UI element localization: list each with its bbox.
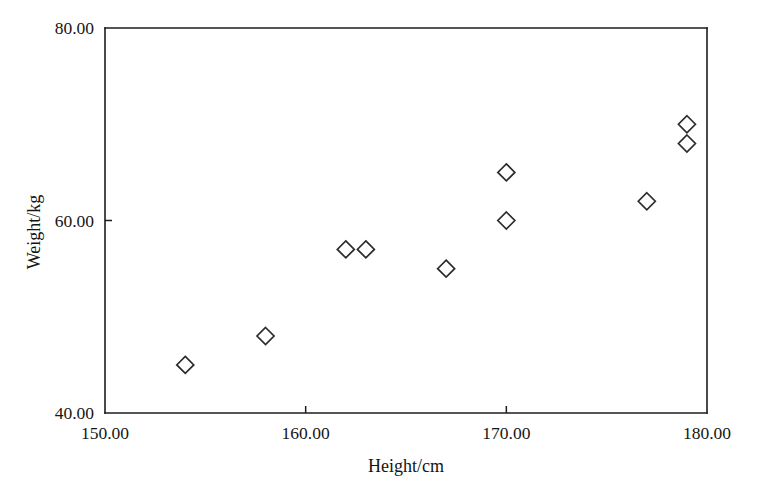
plot-canvas: 150.00160.00170.00180.00 40.0060.0080.00… <box>0 0 758 496</box>
y-axis-title: Weight/kg <box>24 195 44 270</box>
x-tick-label-1: 160.00 <box>282 423 330 443</box>
y-tick-label-0: 40.00 <box>55 403 95 423</box>
x-tick-label-0: 150.00 <box>81 423 129 443</box>
chart-background <box>0 0 758 496</box>
x-tick-label-3: 180.00 <box>683 423 731 443</box>
x-tick-label-2: 170.00 <box>482 423 530 443</box>
scatter-plot-figure: 150.00160.00170.00180.00 40.0060.0080.00… <box>0 0 758 496</box>
y-tick-label-1: 60.00 <box>55 211 95 231</box>
x-axis-title: Height/cm <box>368 456 444 476</box>
y-tick-label-2: 80.00 <box>55 18 95 38</box>
